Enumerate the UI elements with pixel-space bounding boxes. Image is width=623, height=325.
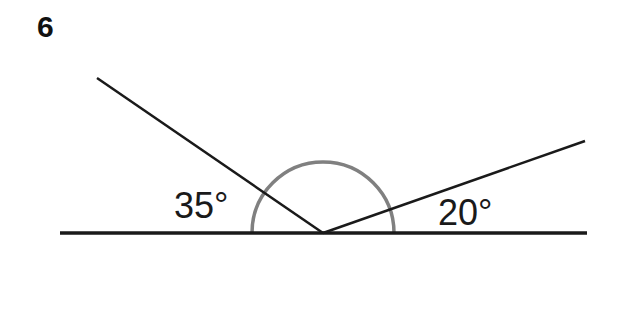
angle-label-left: 35° [174, 185, 228, 226]
angle-diagram: 35° 20° [0, 0, 623, 325]
angle-label-right: 20° [438, 192, 492, 233]
